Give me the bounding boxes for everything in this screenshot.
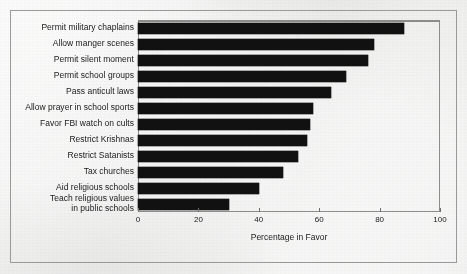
- category-label: Permit silent moment: [14, 55, 134, 65]
- category-label: Pass anticult laws: [14, 87, 134, 97]
- bar: [138, 55, 368, 66]
- bar: [138, 87, 331, 98]
- x-axis-title: Percentage in Favor: [138, 232, 440, 242]
- bar-fill: [138, 103, 313, 114]
- bar: [138, 39, 374, 50]
- bar: [138, 103, 313, 114]
- bar-fill: [138, 135, 307, 146]
- x-axis-tick: [198, 208, 199, 212]
- bar: [138, 199, 229, 210]
- x-axis-tick: [440, 208, 441, 212]
- bar-fill: [138, 151, 298, 162]
- x-axis-tick: [259, 208, 260, 212]
- bar-fill: [138, 23, 404, 34]
- category-label: Tax churches: [14, 167, 134, 177]
- category-label: Allow prayer in school sports: [14, 103, 134, 113]
- bar: [138, 183, 259, 194]
- bar-fill: [138, 55, 368, 66]
- x-axis-tick-label: 40: [254, 215, 263, 224]
- bar-fill: [138, 183, 259, 194]
- bar: [138, 71, 346, 82]
- bar-fill: [138, 87, 331, 98]
- x-axis-tick-label: 80: [375, 215, 384, 224]
- bar-fill: [138, 119, 310, 130]
- x-axis-tick: [380, 208, 381, 212]
- category-label: Permit military chaplains: [14, 23, 134, 33]
- category-axis-labels: Permit military chaplainsAllow manger sc…: [14, 20, 134, 212]
- bar: [138, 23, 404, 34]
- bar-fill: [138, 167, 283, 178]
- category-label: Favor FBI watch on cults: [14, 119, 134, 129]
- chart-screenshot: Permit military chaplainsAllow manger sc…: [0, 0, 467, 274]
- x-axis-tick-label: 100: [433, 215, 446, 224]
- category-label: Allow manger scenes: [14, 39, 134, 49]
- bar: [138, 151, 298, 162]
- category-label: Teach religious values in public schools: [14, 194, 134, 213]
- bar-fill: [138, 71, 346, 82]
- x-axis-tick: [319, 208, 320, 212]
- category-label: Restrict Krishnas: [14, 135, 134, 145]
- bar-fill: [138, 39, 374, 50]
- category-label: Aid religious schools: [14, 183, 134, 193]
- x-axis-tick: [138, 208, 139, 212]
- bar: [138, 119, 310, 130]
- bar: [138, 167, 283, 178]
- x-axis-tick-label: 0: [136, 215, 140, 224]
- bar: [138, 135, 307, 146]
- x-axis-tick-label: 60: [315, 215, 324, 224]
- bars-layer: [138, 20, 440, 212]
- x-axis-tick-label: 20: [194, 215, 203, 224]
- category-label: Permit school groups: [14, 71, 134, 81]
- category-label: Restrict Satanists: [14, 151, 134, 161]
- bar-fill: [138, 199, 229, 210]
